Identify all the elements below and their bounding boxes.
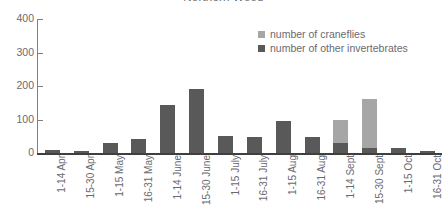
bar-stack[interactable] <box>333 120 348 153</box>
bar-segment-other-invertebrates[interactable] <box>160 105 175 153</box>
bar-stack[interactable] <box>189 89 204 153</box>
bar-stack[interactable] <box>160 105 175 153</box>
bar-stack[interactable] <box>131 139 146 153</box>
chart-legend: number of cranefliesnumber of other inve… <box>258 28 408 54</box>
bar-group[interactable] <box>125 139 154 153</box>
x-axis-tick-label: 1-15 July <box>230 155 241 217</box>
bar-group[interactable] <box>153 105 182 153</box>
bar-group[interactable] <box>240 137 269 153</box>
bar-group[interactable] <box>211 136 240 153</box>
legend-item[interactable]: number of craneflies <box>258 28 408 40</box>
bar-stack[interactable] <box>247 137 262 153</box>
x-axis-tick-label: 1-14 Apr <box>56 155 67 217</box>
bar-stack[interactable] <box>305 137 320 153</box>
x-axis-tick-label: 16-31 Aug <box>316 155 327 217</box>
x-axis-tick-label: 16-31 Oct <box>432 155 443 217</box>
chart-title: Northern Wood <box>0 0 447 3</box>
legend-label: number of other invertebrates <box>270 42 408 54</box>
bar-segment-other-invertebrates[interactable] <box>218 136 233 153</box>
bar-group[interactable] <box>355 99 384 153</box>
x-axis-tick-label: 15-30 June <box>201 155 212 217</box>
legend-item[interactable]: number of other invertebrates <box>258 42 408 54</box>
x-axis-tick-label: 1-15 May <box>114 155 125 217</box>
x-axis-tick-label: 1-15 Aug <box>287 155 298 217</box>
x-axis-tick-label: 1-14 Sept <box>345 155 356 217</box>
bar-group[interactable] <box>182 89 211 153</box>
bar-stack[interactable] <box>103 143 118 153</box>
x-axis-tick-labels: 1-14 Apr15-30 Apr1-15 May16-31 May1-14 J… <box>38 155 442 220</box>
bar-segment-other-invertebrates[interactable] <box>103 143 118 153</box>
bar-segment-other-invertebrates[interactable] <box>189 89 204 153</box>
y-axis-tick-label: 400 <box>16 12 34 24</box>
x-axis-tick-label: 1-14 June <box>172 155 183 217</box>
bar-segment-craneflies[interactable] <box>362 99 377 148</box>
bar-group[interactable] <box>298 137 327 153</box>
y-axis-tick-label: 200 <box>16 79 34 91</box>
bar-segment-other-invertebrates[interactable] <box>276 121 291 153</box>
bar-stack[interactable] <box>362 99 377 153</box>
bar-stack[interactable] <box>218 136 233 153</box>
bar-segment-craneflies[interactable] <box>333 120 348 143</box>
y-axis-tick-label: 100 <box>16 113 34 125</box>
bar-group[interactable] <box>96 143 125 153</box>
bar-group[interactable] <box>327 120 356 153</box>
legend-swatch-icon <box>258 45 265 52</box>
x-axis-tick-label: 15-30 Apr <box>85 155 96 217</box>
bar-segment-other-invertebrates[interactable] <box>305 137 320 153</box>
bar-group[interactable] <box>269 121 298 153</box>
bar-segment-other-invertebrates[interactable] <box>247 137 262 153</box>
x-axis-tick-label: 15-30 Sept <box>374 155 385 217</box>
x-axis-tick-label: 1-15 Oct <box>403 155 414 217</box>
bar-segment-other-invertebrates[interactable] <box>131 139 146 153</box>
x-axis-tick-label: 16-31 May <box>143 155 154 217</box>
bar-stack[interactable] <box>276 121 291 153</box>
x-axis-tick-label: 16-31 July <box>258 155 269 217</box>
legend-label: number of craneflies <box>270 28 365 40</box>
chart-container: Northern Wood 0100200300400 1-14 Apr15-3… <box>0 0 447 220</box>
bar-segment-other-invertebrates[interactable] <box>333 143 348 153</box>
y-axis-tick-label: 0 <box>28 146 34 158</box>
y-axis-tick-label: 300 <box>16 46 34 58</box>
legend-swatch-icon <box>258 31 265 38</box>
